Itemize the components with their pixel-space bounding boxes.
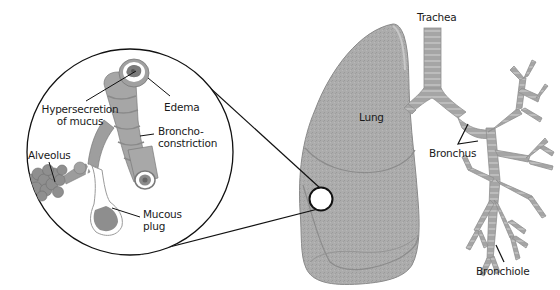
diagram-canvas bbox=[0, 0, 560, 290]
asthma-airway-diagram: Trachea Lung Bronchus Bronchiole Hyperse… bbox=[0, 0, 560, 290]
label-edema: Edema bbox=[164, 101, 199, 113]
label-mucous-plug-line2: plug bbox=[143, 220, 182, 232]
bronchiole-cross-section-top bbox=[119, 59, 149, 87]
label-trachea: Trachea bbox=[417, 11, 457, 23]
lung-illustration bbox=[300, 24, 420, 284]
label-hypersecretion-line1: Hypersecretion bbox=[40, 103, 120, 115]
label-mucous-plug-line1: Mucous bbox=[143, 208, 182, 220]
label-bronchus: Bronchus bbox=[429, 147, 476, 159]
label-bronchiole: Bronchiole bbox=[476, 265, 530, 277]
label-bronchoconstriction-line1: Broncho- bbox=[158, 125, 217, 137]
label-lung: Lung bbox=[359, 111, 384, 123]
bronchial-tree bbox=[404, 28, 554, 276]
lung-outline bbox=[300, 24, 420, 284]
label-bronchoconstriction-line2: constriction bbox=[158, 137, 217, 149]
trachea-tube bbox=[424, 28, 441, 90]
label-hypersecretion-of-mucus: Hypersecretion of mucus bbox=[40, 103, 120, 127]
label-hypersecretion-line2: of mucus bbox=[40, 115, 120, 127]
magnify-source-circle bbox=[310, 188, 333, 211]
label-mucous-plug: Mucous plug bbox=[143, 208, 182, 232]
label-bronchoconstriction: Broncho- constriction bbox=[158, 125, 217, 149]
label-alveolus: Alveolus bbox=[28, 149, 71, 161]
